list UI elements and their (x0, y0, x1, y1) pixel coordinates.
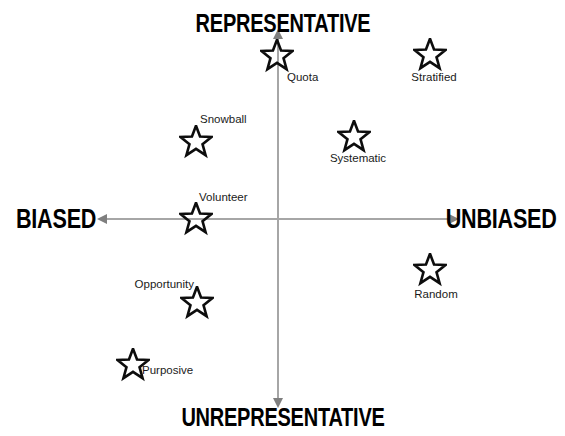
marker-label-snowball: Snowball (200, 113, 247, 125)
star-marker-snowball[interactable] (179, 125, 213, 159)
star-marker-quota[interactable] (260, 39, 294, 73)
marker-label-random: Random (414, 288, 457, 300)
diagram-canvas: REPRESENTATIVE UNREPRESENTATIVE BIASED U… (0, 0, 565, 436)
marker-label-opportunity: Opportunity (135, 278, 194, 290)
marker-label-purposive: Purposive (142, 364, 193, 376)
star-marker-volunteer[interactable] (179, 202, 213, 236)
axis-label-biased: BIASED (16, 204, 96, 235)
marker-label-stratified: Stratified (411, 71, 456, 83)
arrow-left-icon (97, 214, 107, 224)
star-marker-stratified[interactable] (413, 38, 447, 72)
axis-label-representative: REPRESENTATIVE (195, 9, 370, 38)
axis-label-unrepresentative: UNREPRESENTATIVE (181, 403, 384, 432)
star-marker-random[interactable] (413, 253, 447, 287)
vertical-axis-line (277, 38, 279, 400)
marker-label-volunteer: Volunteer (199, 191, 248, 203)
star-marker-systematic[interactable] (337, 120, 371, 154)
marker-label-systematic: Systematic (330, 152, 386, 164)
marker-label-quota: Quota (287, 71, 318, 83)
star-marker-opportunity[interactable] (180, 286, 214, 320)
axis-label-unbiased: UNBIASED (446, 204, 557, 235)
